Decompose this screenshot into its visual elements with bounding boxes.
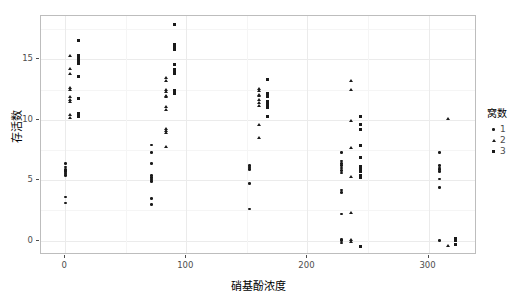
- y-tick-label: 10: [0, 114, 33, 124]
- data-point: [349, 240, 353, 243]
- gridline-horizontal: [41, 180, 475, 181]
- data-point: [173, 63, 176, 66]
- data-point: [340, 213, 343, 216]
- data-point: [150, 162, 153, 165]
- y-tick-mark: [36, 58, 39, 59]
- gridline-vertical: [429, 16, 430, 253]
- data-point: [164, 90, 168, 93]
- legend-item-2[interactable]: 2: [487, 135, 531, 146]
- data-point: [359, 123, 362, 126]
- data-point: [248, 168, 251, 171]
- data-point: [438, 151, 441, 154]
- gridline-vertical: [307, 16, 308, 253]
- legend-key-circle-icon: [487, 124, 500, 135]
- data-point: [257, 94, 261, 97]
- data-point: [248, 182, 251, 185]
- legend-label-2: 2: [500, 135, 506, 146]
- y-tick-mark: [36, 240, 39, 241]
- data-point: [164, 145, 168, 148]
- data-point: [349, 146, 353, 149]
- data-point: [164, 105, 168, 108]
- data-point: [150, 180, 153, 183]
- x-tick-label: 100: [160, 260, 210, 270]
- y-tick-label: 0: [0, 235, 33, 245]
- y-tick-mark: [36, 179, 39, 180]
- data-point: [150, 197, 153, 200]
- data-point: [438, 239, 441, 242]
- gridline-horizontal-minor: [41, 150, 475, 151]
- gridline-horizontal-minor: [41, 210, 475, 211]
- data-point: [257, 89, 261, 92]
- legend-label-3: 3: [500, 146, 506, 157]
- gridline-horizontal: [41, 241, 475, 242]
- data-point: [150, 151, 153, 154]
- gridline-vertical: [65, 16, 66, 253]
- x-tick-mark: [306, 255, 307, 258]
- data-point: [349, 88, 353, 91]
- data-point: [68, 116, 72, 119]
- gridline-vertical-minor: [126, 16, 127, 253]
- data-point: [359, 245, 362, 248]
- data-point: [77, 115, 80, 118]
- data-point: [359, 176, 362, 179]
- gridline-horizontal: [41, 120, 475, 121]
- data-point: [68, 54, 72, 57]
- data-point: [68, 88, 72, 91]
- y-axis-label: 存活数: [8, 66, 24, 186]
- data-point: [64, 196, 67, 199]
- data-point: [150, 203, 153, 206]
- data-point: [359, 128, 362, 131]
- data-point: [340, 242, 343, 245]
- data-point: [257, 98, 261, 101]
- data-point: [173, 92, 176, 95]
- data-point: [173, 23, 176, 26]
- data-point: [266, 103, 269, 106]
- data-point: [164, 76, 168, 79]
- data-point: [454, 243, 457, 246]
- data-point: [164, 131, 168, 134]
- legend-item-3[interactable]: 3: [487, 146, 531, 157]
- data-point: [266, 106, 269, 109]
- gridline-vertical: [186, 16, 187, 253]
- gridline-horizontal-minor: [41, 29, 475, 30]
- data-point: [164, 79, 168, 82]
- x-axis-label: 硝基酚浓度: [40, 277, 476, 293]
- data-point: [438, 178, 441, 181]
- plot-panel: [40, 15, 476, 254]
- x-tick-mark: [64, 255, 65, 258]
- data-point: [266, 78, 269, 81]
- data-point: [454, 239, 457, 242]
- gridline-vertical-minor: [368, 16, 369, 253]
- chart-root: 存活数 硝基酚浓度 窝数 1 2 3 0100200300051015: [0, 0, 531, 305]
- data-point: [173, 48, 176, 51]
- data-point: [349, 119, 353, 122]
- legend-title: 窝数: [487, 105, 531, 120]
- data-point: [64, 162, 67, 165]
- x-tick-label: 300: [403, 260, 453, 270]
- data-point: [164, 108, 168, 111]
- data-point: [257, 136, 261, 139]
- data-point: [266, 95, 269, 98]
- data-point: [68, 67, 72, 70]
- data-point: [77, 39, 80, 42]
- y-tick-mark: [36, 119, 39, 120]
- data-point: [266, 115, 269, 118]
- y-tick-label: 5: [0, 174, 33, 184]
- data-point: [266, 92, 269, 95]
- data-point: [164, 95, 168, 98]
- x-tick-label: 200: [281, 260, 331, 270]
- legend-item-1[interactable]: 1: [487, 124, 531, 135]
- data-point: [438, 186, 441, 189]
- legend: 窝数 1 2 3: [487, 105, 531, 157]
- data-point: [359, 156, 362, 159]
- data-point: [173, 72, 176, 75]
- x-tick-mark: [185, 255, 186, 258]
- legend-key-square-icon: [487, 146, 500, 157]
- data-point: [68, 72, 72, 75]
- data-point: [438, 170, 441, 173]
- legend-label-1: 1: [500, 124, 506, 135]
- gridline-vertical-minor: [247, 16, 248, 253]
- data-point: [77, 75, 80, 78]
- y-tick-label: 15: [0, 53, 33, 63]
- data-point: [77, 97, 80, 100]
